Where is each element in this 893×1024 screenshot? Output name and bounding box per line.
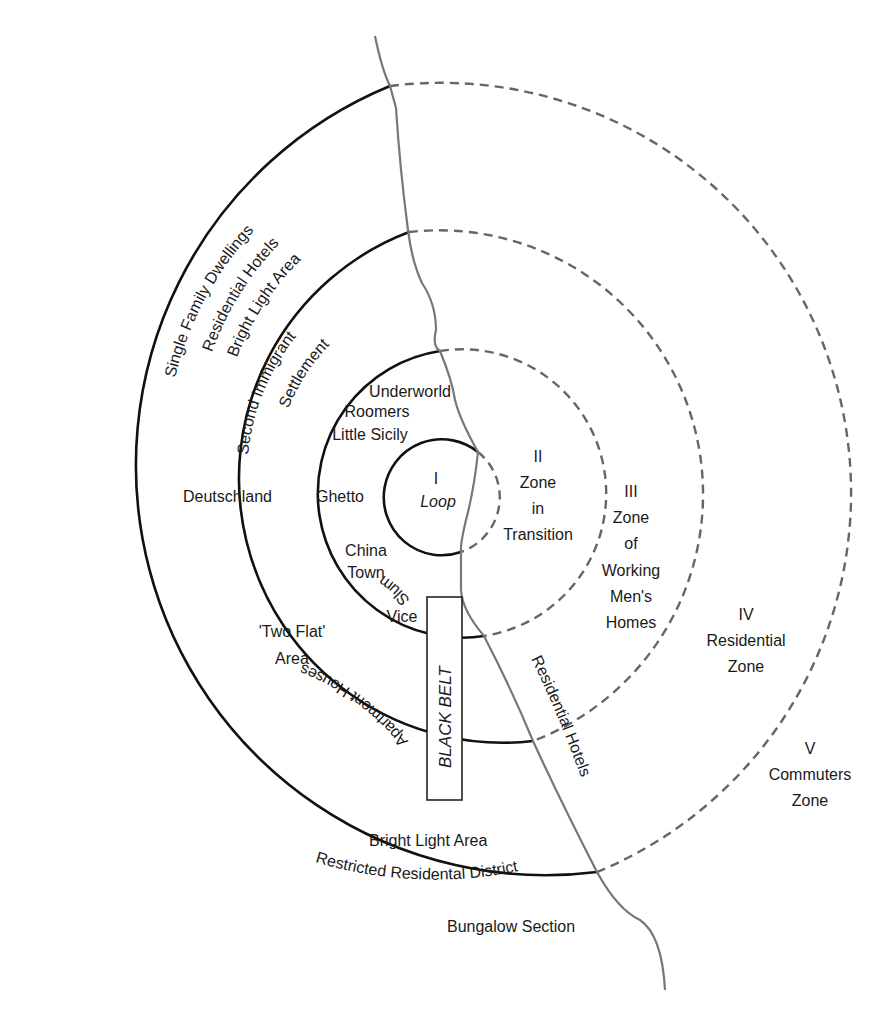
label-deutschland: Deutschland: [183, 488, 272, 505]
label-ghetto: Ghetto: [316, 488, 364, 505]
label-single-family-dwellings: Single Family Dwellings: [161, 221, 256, 379]
label-bungalow-section: Bungalow Section: [447, 918, 575, 935]
zone-iii-line-1: Zone: [613, 509, 650, 526]
zone-iii-line-3: Working: [602, 562, 660, 579]
zone-iii-line-4: Men's: [610, 588, 652, 605]
label-town: Town: [347, 564, 384, 581]
label-vice: Vice: [387, 608, 418, 625]
concentric-zone-diagram: BLACK BELT I Loop II Zone in Transition …: [0, 0, 893, 1024]
label-china: China: [345, 542, 387, 559]
zone-iv-line-1: Residential: [706, 632, 785, 649]
zone-iii-line-5: Homes: [606, 614, 657, 631]
zone-v-numeral: V: [805, 740, 816, 757]
zone-iii-numeral: III: [624, 483, 637, 500]
zone-ii-line-1: Zone: [520, 474, 557, 491]
label-underworld: Underworld: [369, 383, 451, 400]
zone-ii-line-3: Transition: [503, 526, 573, 543]
zone-i-name: Loop: [420, 493, 456, 510]
label-two-flat: 'Two Flat': [259, 623, 326, 640]
zone-ii-line-2: in: [532, 500, 544, 517]
zone-ii-boundary-dashed: [440, 349, 606, 636]
zone-ii-numeral: II: [534, 448, 543, 465]
zone-v-line-1: Commuters: [769, 766, 852, 783]
zone-v-line-2: Zone: [792, 792, 829, 809]
zone-iv-numeral: IV: [738, 606, 753, 623]
black-belt-label: BLACK BELT: [436, 665, 455, 768]
label-bright-light-area-bottom: Bright Light Area: [369, 832, 487, 849]
zone-iv-line-2: Zone: [728, 658, 765, 675]
zone-iii-line-2: of: [624, 535, 638, 552]
label-roomers: Roomers: [345, 403, 410, 420]
zone-i-numeral: I: [434, 470, 438, 487]
label-little-sicily: Little Sicily: [332, 426, 408, 443]
zone-i-boundary-dashed: [461, 452, 500, 552]
label-apartment-houses: Apartment Houses: [297, 661, 410, 750]
